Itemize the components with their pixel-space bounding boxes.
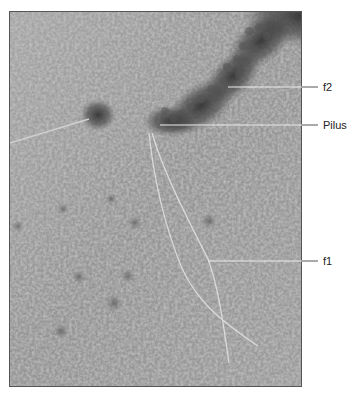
leader-lines [0, 0, 354, 394]
figure: f2 Pilus f1 [0, 0, 354, 394]
label-f1: f1 [323, 256, 332, 267]
label-f2: f2 [323, 82, 332, 93]
label-pilus: Pilus [323, 120, 347, 131]
